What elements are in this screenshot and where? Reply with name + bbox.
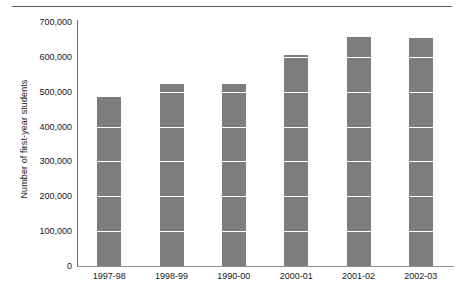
- chart-figure: Number of first-year students 0100,00020…: [0, 0, 463, 295]
- x-axis-line: [77, 266, 454, 267]
- x-tick-label: 1990-00: [199, 271, 269, 282]
- plot-area: [78, 22, 452, 266]
- bar-column: [347, 22, 371, 266]
- x-tick-label: 2002-03: [386, 271, 456, 282]
- y-tick-label: 300,000: [10, 156, 72, 166]
- y-tick-label: 600,000: [10, 52, 72, 62]
- y-tick-label: 500,000: [10, 87, 72, 97]
- bar-column: [222, 22, 246, 266]
- x-tick-label: 1997-98: [74, 271, 144, 282]
- bar-column: [284, 22, 308, 266]
- y-tick-label: 400,000: [10, 122, 72, 132]
- bar-1998-99[interactable]: [160, 84, 184, 266]
- x-tick-label: 2000-01: [261, 271, 331, 282]
- bar-2002-03[interactable]: [409, 38, 433, 266]
- bar-1997-98[interactable]: [97, 97, 121, 266]
- y-tick-label: 0: [10, 261, 72, 271]
- y-tick-label: 200,000: [10, 191, 72, 201]
- x-tick-label: 1998-99: [137, 271, 207, 282]
- x-tick-label: 2001-02: [324, 271, 394, 282]
- y-axis-tick-labels: 0100,000200,000300,000400,000500,000600,…: [8, 0, 72, 295]
- bar-column: [97, 22, 121, 266]
- bar-2001-02[interactable]: [347, 37, 371, 266]
- bar-1990-00[interactable]: [222, 84, 246, 266]
- top-divider-rule: [12, 6, 452, 7]
- bar-column: [160, 22, 184, 266]
- bar-2000-01[interactable]: [284, 55, 308, 266]
- y-tick-label: 100,000: [10, 226, 72, 236]
- y-tick-label: 700,000: [10, 17, 72, 27]
- bar-column: [409, 22, 433, 266]
